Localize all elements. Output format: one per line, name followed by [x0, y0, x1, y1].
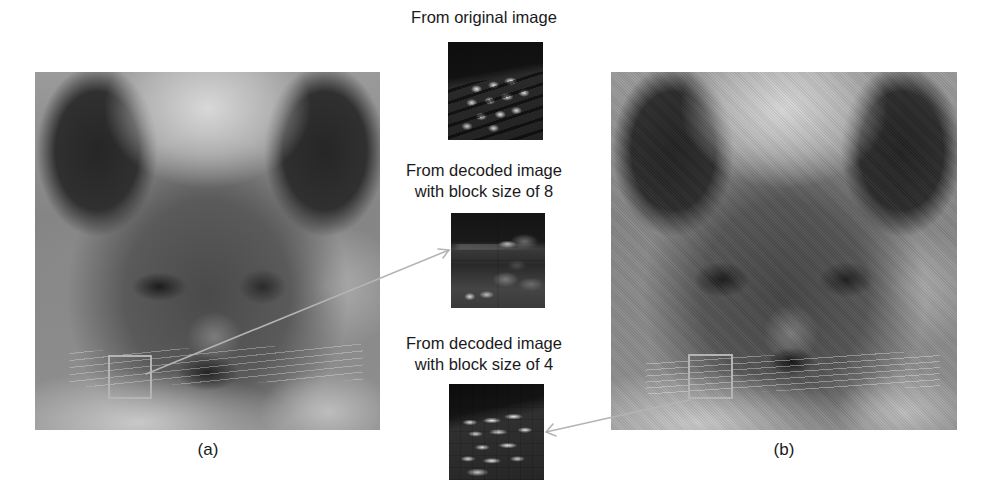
panel-a-caption: (a): [178, 440, 238, 460]
panel-b-image: [611, 72, 957, 430]
patch-block8: [451, 213, 545, 308]
patch-block4: [449, 384, 544, 480]
patch-original: [448, 42, 543, 140]
panel-b-caption: (b): [754, 440, 814, 460]
roi-box-a: [108, 355, 152, 399]
panel-a-image: [35, 72, 380, 430]
patch-block8-caption: From decoded image with block size of 8: [374, 160, 594, 202]
arrowhead-a-to-block8-icon: [438, 249, 449, 258]
patch-original-caption: From original image: [374, 7, 594, 28]
arrowhead-b-to-block4-icon: [546, 424, 556, 436]
roi-box-b: [688, 354, 733, 399]
patch-block4-caption: From decoded image with block size of 4: [374, 333, 594, 375]
